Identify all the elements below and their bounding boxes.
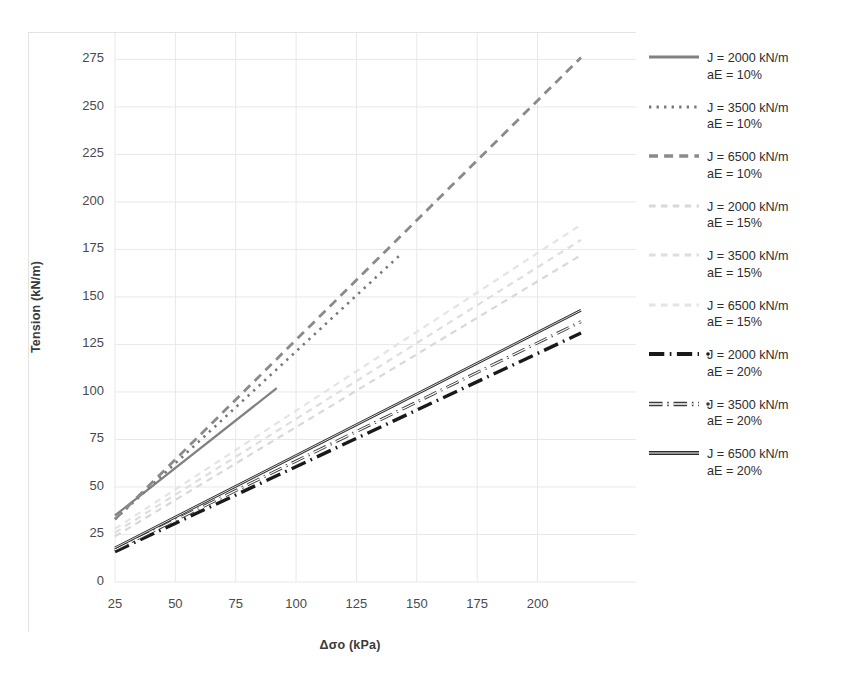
legend-label-line2: aE = 20% (707, 413, 789, 430)
legend-label-line2: aE = 20% (707, 463, 789, 480)
series-line (115, 225, 581, 529)
legend-line-swatch (648, 96, 700, 126)
legend-item[interactable]: J = 6500 kN/maE = 20% (648, 442, 863, 479)
legend-label: J = 3500 kN/maE = 10% (707, 96, 789, 133)
legend-label-line1: J = 3500 kN/m (707, 100, 789, 117)
legend-item[interactable]: J = 6500 kN/maE = 15% (648, 294, 863, 331)
legend-label-line2: aE = 10% (707, 116, 789, 133)
y-tick-label: 225 (58, 145, 104, 160)
x-tick-label: 100 (276, 596, 316, 611)
legend-label-line2: aE = 20% (707, 364, 789, 381)
y-tick-label: 150 (58, 288, 104, 303)
legend-item[interactable]: J = 6500 kN/maE = 10% (648, 145, 863, 182)
chart-container: 0255075100125150175200225250275 25507510… (0, 0, 865, 684)
legend-line-swatch (648, 343, 700, 373)
y-tick-label: 175 (58, 240, 104, 255)
series-line (115, 240, 581, 533)
legend-label-line1: J = 6500 kN/m (707, 446, 789, 463)
legend-label: J = 2000 kN/maE = 20% (707, 343, 789, 380)
legend-line-swatch (648, 46, 700, 76)
y-tick-label: 125 (58, 335, 104, 350)
legend-line-swatch (648, 244, 700, 274)
y-tick-label: 250 (58, 98, 104, 113)
legend-item[interactable]: J = 3500 kN/maE = 10% (648, 96, 863, 133)
legend-label: J = 3500 kN/maE = 20% (707, 393, 789, 430)
x-tick-label: 175 (457, 596, 497, 611)
legend-item[interactable]: J = 2000 kN/maE = 15% (648, 195, 863, 232)
legend-label-line2: aE = 10% (707, 166, 789, 183)
legend-item[interactable]: J = 3500 kN/maE = 15% (648, 244, 863, 281)
legend-line-swatch (648, 294, 700, 324)
y-tick-label: 275 (58, 50, 104, 65)
legend-label-line1: J = 2000 kN/m (707, 347, 789, 364)
y-tick-label: 200 (58, 193, 104, 208)
y-tick-label: 0 (58, 573, 104, 588)
legend-item[interactable]: J = 2000 kN/maE = 10% (648, 46, 863, 83)
legend-label-line1: J = 3500 kN/m (707, 248, 789, 265)
x-tick-label: 125 (336, 596, 376, 611)
legend-line-swatch (648, 145, 700, 175)
y-axis-label: Tension (kN/m) (29, 227, 43, 387)
legend-label-line1: J = 2000 kN/m (707, 199, 789, 216)
series-line (115, 322, 581, 550)
legend-label-line2: aE = 15% (707, 215, 789, 232)
y-tick-label: 75 (58, 430, 104, 445)
x-tick-label: 25 (95, 596, 135, 611)
series-line (115, 333, 581, 552)
y-tick-label: 25 (58, 525, 104, 540)
legend-label: J = 3500 kN/maE = 15% (707, 244, 789, 281)
legend-label-line2: aE = 15% (707, 314, 789, 331)
legend-item[interactable]: J = 3500 kN/maE = 20% (648, 393, 863, 430)
legend-line-swatch (648, 393, 700, 423)
legend-label-line1: J = 2000 kN/m (707, 50, 789, 67)
legend-label-line2: aE = 15% (707, 265, 789, 282)
y-tick-label: 50 (58, 478, 104, 493)
x-tick-label: 75 (216, 596, 256, 611)
x-axis-label: Δσo (kPa) (230, 638, 470, 652)
x-tick-label: 50 (155, 596, 195, 611)
x-tick-label: 150 (397, 596, 437, 611)
series-line (115, 310, 581, 548)
y-tick-label: 100 (58, 383, 104, 398)
legend-label-line1: J = 3500 kN/m (707, 397, 789, 414)
legend-line-swatch (648, 195, 700, 225)
gridlines (115, 33, 636, 582)
legend-line-swatch (648, 442, 700, 472)
legend-label: J = 6500 kN/maE = 10% (707, 145, 789, 182)
legend-label: J = 6500 kN/maE = 15% (707, 294, 789, 331)
series-lines (115, 58, 581, 552)
x-tick-label: 200 (518, 596, 558, 611)
legend-item[interactable]: J = 2000 kN/maE = 20% (648, 343, 863, 380)
legend-label: J = 2000 kN/maE = 10% (707, 46, 789, 83)
chart-legend: J = 2000 kN/maE = 10%J = 3500 kN/maE = 1… (648, 46, 863, 492)
legend-label-line1: J = 6500 kN/m (707, 298, 789, 315)
legend-label: J = 6500 kN/maE = 20% (707, 442, 789, 479)
legend-label-line2: aE = 10% (707, 67, 789, 84)
legend-label: J = 2000 kN/maE = 15% (707, 195, 789, 232)
series-line (115, 58, 581, 520)
legend-label-line1: J = 6500 kN/m (707, 149, 789, 166)
